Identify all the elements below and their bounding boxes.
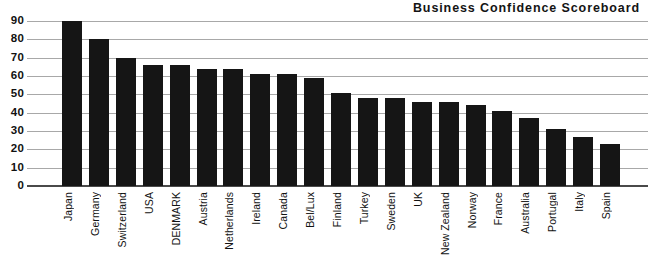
bar [600,144,620,186]
x-tick-label: DENMARK [170,192,190,245]
x-tick-label: Spain [600,192,620,219]
x-tick-label: Norway [466,192,486,228]
x-tick-label: Japan [62,192,82,221]
x-tick-label: New Zealand [439,192,459,255]
x-tick-label: Bel/Lux [304,192,324,228]
bar [116,58,136,186]
bar [304,78,324,186]
bar [519,118,539,186]
bar [385,98,405,186]
bar [546,129,566,186]
bar [143,65,163,186]
x-tick-label: Canada [277,192,297,229]
x-tick-label: Australia [519,192,539,234]
x-tick-label: France [492,192,512,225]
bars-layer [0,0,648,192]
bar [331,93,351,187]
bar [223,69,243,186]
x-tick-label: Italy [573,192,593,212]
bar [573,137,593,187]
x-tick-label: Portugal [546,192,566,232]
bar [277,74,297,186]
bar [197,69,217,186]
bar [250,74,270,186]
x-axis: JapanGermanySwitzerlandUSADENMARKAustria… [0,188,648,269]
x-tick-label: Switzerland [116,192,136,247]
bar [89,39,109,186]
bar [466,105,486,186]
bar [439,102,459,186]
bar [492,111,512,186]
x-tick-label: Finland [331,192,351,227]
x-tick-label: Sweden [385,192,405,231]
x-tick-label: UK [412,192,432,207]
bar [170,65,190,186]
x-tick-label: Netherlands [223,192,243,250]
x-tick-label: USA [143,192,163,214]
x-tick-label: Ireland [250,192,270,225]
bar [62,21,82,186]
bar [358,98,378,186]
x-tick-label: Austria [197,192,217,225]
x-tick-label: Germany [89,192,109,236]
x-tick-label: Turkey [358,192,378,224]
plot-area: 0102030405060708090 [0,0,648,192]
business-confidence-bar-chart: Business Confidence Scoreboard 010203040… [0,0,648,269]
bar [412,102,432,186]
